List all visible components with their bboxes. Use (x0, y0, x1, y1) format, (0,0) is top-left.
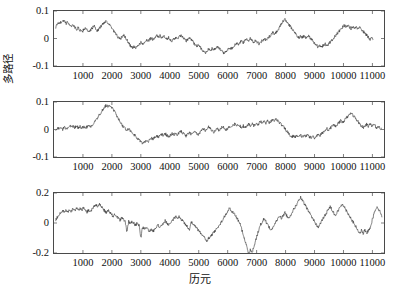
x-tick-label: 11000 (355, 161, 389, 172)
plot-area-1 (53, 10, 385, 67)
trace-3 (54, 193, 384, 253)
x-axis-label: 历元 (0, 270, 399, 286)
y-tick-label: -0.1 (5, 61, 49, 71)
y-tick-label: 0.1 (5, 6, 49, 16)
y-tick-label: 0 (5, 34, 49, 44)
trace-2 (54, 102, 384, 157)
plot-area-3 (53, 192, 385, 254)
y-tick-label: -0.1 (5, 152, 49, 162)
y-tick-label: 0.1 (5, 97, 49, 107)
y-tick-label: 0 (5, 218, 49, 228)
trace-1 (54, 11, 384, 66)
data-line (56, 18, 373, 54)
figure-multipath-timeseries: 多路径 -0.100.1 100020003000400050006000700… (0, 0, 399, 294)
plot-area-2 (53, 101, 385, 158)
x-tick-label: 11000 (355, 70, 389, 81)
data-line (56, 104, 382, 144)
y-tick-label: 0 (5, 125, 49, 135)
y-tick-label: 0.2 (5, 188, 49, 198)
y-tick-label: -0.2 (5, 248, 49, 258)
data-line (56, 196, 382, 253)
x-tick-label: 11000 (355, 257, 389, 268)
